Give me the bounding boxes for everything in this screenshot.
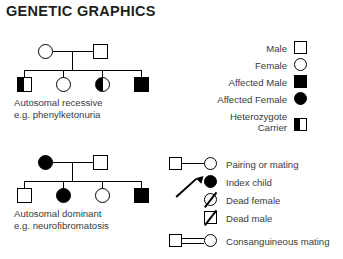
legend-consanguineous-square-icon — [169, 234, 182, 247]
pedigree2-parent-female-affected — [38, 155, 53, 170]
pedigree1-child-female-unaffected — [56, 77, 71, 92]
pedigree2-child-female-affected — [56, 188, 71, 203]
genetic-graphics-figure: GENETIC GRAPHICS Autosomal recessive e.g… — [0, 0, 343, 259]
legend-label-female: Female — [200, 60, 287, 71]
pedigree2-child-male-unaffected — [17, 188, 32, 203]
legend-label-index-child: Index child — [226, 177, 272, 188]
page-title: GENETIC GRAPHICS — [6, 3, 156, 19]
legend-label-pairing-or-mating: Pairing or mating — [226, 159, 299, 170]
pedigree1-sibship-line — [24, 70, 142, 71]
legend-pairing-circle-icon — [204, 157, 217, 170]
legend-filled-circle-icon — [294, 92, 307, 105]
legend-label-dead-female: Dead female — [226, 195, 280, 206]
legend-label-carrier: Carrier — [200, 123, 287, 134]
pedigree2-descender — [72, 162, 73, 182]
legend-half-filled-square-icon — [294, 118, 307, 131]
pedigree1-child-male-carrier — [17, 77, 32, 92]
legend-label-male: Male — [200, 43, 287, 54]
pedigree1-child-female-carrier — [95, 77, 110, 92]
legend-label-consanguineous-mating: Consanguineous mating — [226, 236, 329, 247]
pedigree1-parent-female-unaffected — [38, 44, 53, 59]
legend-label-dead-male: Dead male — [226, 213, 272, 224]
legend-label-affected-female: Affected Female — [190, 94, 287, 105]
legend-consanguineous-line-upper — [182, 238, 204, 239]
legend-consanguineous-line-lower — [182, 243, 204, 244]
legend-pairing-line — [182, 163, 204, 164]
legend-pairing-square-icon — [169, 157, 182, 170]
pedigree1-caption-line2: e.g. phenylketonuria — [14, 109, 100, 121]
pedigree2-caption-line2: e.g. neurofibromatosis — [14, 220, 109, 232]
legend-consanguineous-circle-icon — [204, 234, 217, 247]
pedigree2-child-female-unaffected — [95, 188, 110, 203]
pedigree1-child-male-affected — [134, 77, 149, 92]
pedigree2-child-male-affected — [134, 188, 149, 203]
legend-filled-square-icon — [294, 75, 307, 88]
pedigree1-descender — [72, 51, 73, 71]
legend-index-child-circle-icon — [204, 175, 217, 188]
pedigree2-parent-male-unaffected — [93, 155, 108, 170]
pedigree1-parent-male-unaffected — [93, 44, 108, 59]
legend-open-square-icon — [294, 41, 307, 54]
legend-index-arrow-shaft — [175, 178, 196, 197]
legend-open-circle-icon — [294, 58, 307, 71]
pedigree2-sibship-line — [24, 181, 142, 182]
pedigree2-caption-line1: Autosomal dominant — [14, 208, 101, 220]
pedigree1-caption-line1: Autosomal recessive — [14, 97, 103, 109]
legend-label-affected-male: Affected Male — [200, 77, 287, 88]
